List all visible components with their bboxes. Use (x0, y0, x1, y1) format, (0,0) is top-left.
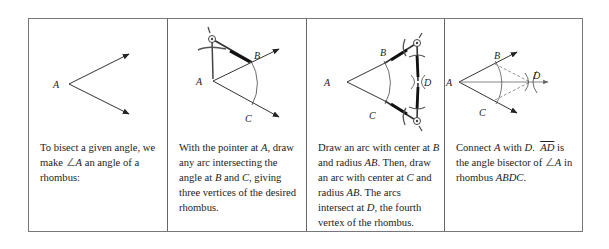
label-b: B (254, 50, 260, 61)
caption-line: With the pointer at A, draw (179, 140, 296, 155)
ray-lower (69, 84, 129, 114)
label-a: A (52, 79, 60, 90)
ray-upper (69, 54, 129, 84)
ray-ac (459, 82, 517, 113)
label-d: D (532, 70, 541, 81)
label-b: B (380, 47, 386, 58)
segment-ab (347, 63, 385, 82)
ray-ab (213, 49, 279, 81)
caption-line: any arc intersecting the (179, 155, 296, 170)
diagram-angle-a: A (29, 19, 168, 129)
caption-line: intersect at D, the fourth (318, 200, 439, 215)
arc-from-b (411, 75, 415, 89)
compass-icon (385, 33, 425, 81)
compass-icon (198, 27, 252, 79)
caption-line: the angle bisector of ∠A in (456, 155, 572, 170)
caption-line: and radius AB. Then, draw (318, 155, 439, 170)
diagram-bisector: A B C D (445, 19, 583, 139)
label-c: C (245, 113, 252, 124)
caption-line: rhombus. (179, 200, 296, 215)
caption-step-3: Draw an arc with center at B and radius … (318, 140, 439, 230)
caption-step-1: To bisect a given angle, we make ∠A an a… (40, 140, 155, 185)
caption-line: Draw an arc with center at B (318, 140, 439, 155)
caption-line: angle at B and C, giving (179, 170, 296, 185)
label-d: D (423, 77, 432, 88)
caption-line: radius AB. The arcs (318, 185, 439, 200)
caption-step-4: Connect A with D. AD is the angle bisect… (456, 140, 572, 185)
label-a: A (445, 77, 453, 88)
segment-cd-dashed (495, 82, 530, 100)
ray-ab (459, 52, 517, 82)
caption-line: rhombus ABDC. (456, 170, 572, 185)
ray-notation: AD (540, 142, 554, 153)
panel-step-1: A To bisect a given angle, we make ∠A an… (29, 19, 168, 231)
label-c: C (479, 107, 486, 118)
panel-step-2: A B C With the pointer at A, draw any ar… (168, 19, 307, 231)
arc-bc (384, 61, 390, 104)
panel-step-4: A B C D Connect A with D. AD is the angl… (445, 19, 583, 231)
caption-line: make ∠A an angle of a (40, 155, 155, 170)
diagram-compass-arc: A B C (168, 19, 307, 139)
label-c: C (369, 110, 376, 121)
caption-line: rhombus: (40, 170, 155, 185)
label-a: A (195, 76, 203, 87)
caption-line: vertex of the rhombus. (318, 215, 439, 230)
label-b: B (494, 50, 500, 61)
label-a: A (323, 77, 331, 88)
figure-frame: A To bisect a given angle, we make ∠A an… (28, 18, 583, 232)
caption-line: three vertices of the desired (179, 185, 296, 200)
caption-line: To bisect a given angle, we (40, 140, 155, 155)
segment-ac (347, 82, 385, 101)
diagram-two-arcs: A B C D (307, 19, 445, 139)
caption-step-2: With the pointer at A, draw any arc inte… (179, 140, 296, 215)
arc-bc (251, 61, 257, 105)
compass-icon (385, 83, 425, 131)
caption-line: Connect A with D. AD is (456, 140, 572, 155)
panel-step-3: A B C D Draw an arc with center at B and… (307, 19, 445, 231)
caption-line: an arc with center at C and (318, 170, 439, 185)
ray-ac (213, 81, 279, 117)
